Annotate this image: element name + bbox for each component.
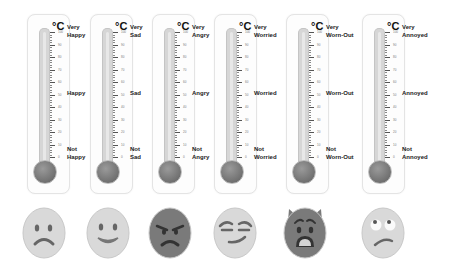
minor-tick xyxy=(309,75,311,76)
minor-tick xyxy=(237,77,239,78)
minor-tick xyxy=(175,122,177,123)
major-tick xyxy=(237,132,242,133)
minor-tick xyxy=(175,75,177,76)
major-tick xyxy=(175,132,180,133)
minor-tick xyxy=(50,135,52,136)
minor-tick xyxy=(113,60,115,61)
minor-tick xyxy=(237,52,239,53)
minor-tick xyxy=(175,87,177,88)
minor-tick xyxy=(309,42,311,43)
major-tick xyxy=(113,45,118,46)
minor-tick xyxy=(385,77,387,78)
tick-label: 10 xyxy=(393,143,396,147)
minor-tick xyxy=(113,67,115,68)
minor-tick xyxy=(237,75,239,76)
minor-tick xyxy=(385,135,387,136)
minor-tick xyxy=(175,42,177,43)
minor-tick xyxy=(50,37,52,38)
label-mid-emotion: Angry xyxy=(192,90,209,98)
minor-tick xyxy=(50,102,52,103)
minor-tick xyxy=(113,37,115,38)
tick-label: 40 xyxy=(393,105,396,109)
thermometer-scale: 1009080706050403020100 xyxy=(175,28,189,164)
minor-tick xyxy=(309,37,311,38)
tube-highlight xyxy=(302,32,305,162)
tick-label: 80 xyxy=(317,55,320,59)
minor-tick xyxy=(175,90,177,91)
tick-label: 80 xyxy=(121,55,124,59)
minor-tick xyxy=(385,80,387,81)
tick-label: 100 xyxy=(183,30,188,34)
minor-tick xyxy=(385,85,387,86)
minor-tick xyxy=(50,47,52,48)
thermometer-card-worried: °C1009080706050403020100 xyxy=(214,14,257,194)
minor-tick xyxy=(309,122,311,123)
minor-tick xyxy=(113,150,115,151)
minor-tick xyxy=(175,65,177,66)
minor-tick xyxy=(309,97,311,98)
minor-tick xyxy=(237,122,239,123)
minor-tick xyxy=(237,35,239,36)
minor-tick xyxy=(385,97,387,98)
minor-tick xyxy=(385,100,387,101)
minor-tick xyxy=(50,60,52,61)
major-tick xyxy=(50,107,55,108)
minor-tick xyxy=(309,72,311,73)
major-tick xyxy=(385,107,390,108)
minor-tick xyxy=(175,97,177,98)
minor-tick xyxy=(237,87,239,88)
thermometer-card-annoyed: °C1009080706050403020100 xyxy=(362,14,405,194)
major-tick xyxy=(309,95,314,96)
minor-tick xyxy=(175,85,177,86)
major-tick xyxy=(175,45,180,46)
tick-label: 80 xyxy=(393,55,396,59)
minor-tick xyxy=(113,140,115,141)
minor-tick xyxy=(309,102,311,103)
minor-tick xyxy=(309,140,311,141)
major-tick xyxy=(309,32,314,33)
minor-tick xyxy=(113,125,115,126)
minor-tick xyxy=(50,65,52,66)
minor-tick xyxy=(385,137,387,138)
major-tick xyxy=(113,120,118,121)
tick-label: 90 xyxy=(317,43,320,47)
minor-tick xyxy=(50,115,52,116)
tick-label: 50 xyxy=(58,93,61,97)
label-not-emotion: Sad xyxy=(130,154,141,162)
minor-tick xyxy=(237,62,239,63)
tick-label: 40 xyxy=(58,105,61,109)
minor-tick xyxy=(237,60,239,61)
thermometer-scale: 1009080706050403020100 xyxy=(50,28,64,164)
minor-tick xyxy=(309,92,311,93)
minor-tick xyxy=(113,137,115,138)
minor-tick xyxy=(175,137,177,138)
minor-tick xyxy=(309,100,311,101)
minor-tick xyxy=(50,142,52,143)
tick-label: 30 xyxy=(393,118,396,122)
minor-tick xyxy=(385,102,387,103)
minor-tick xyxy=(385,142,387,143)
minor-tick xyxy=(385,155,387,156)
minor-tick xyxy=(309,60,311,61)
frowning-face-icon xyxy=(22,207,66,259)
tick-label: 0 xyxy=(121,155,123,159)
minor-tick xyxy=(50,117,52,118)
tick-label: 60 xyxy=(393,80,396,84)
tick-label: 0 xyxy=(183,155,185,159)
minor-tick xyxy=(237,40,239,41)
label-very-emotion: Angry xyxy=(192,32,209,40)
minor-tick xyxy=(385,75,387,76)
minor-tick xyxy=(175,52,177,53)
label-not-emotion: Worn-Out xyxy=(326,154,354,162)
major-tick xyxy=(309,45,314,46)
label-mid-emotion: Annoyed xyxy=(402,90,428,98)
minor-tick xyxy=(50,55,52,56)
minor-tick xyxy=(175,155,177,156)
minor-tick xyxy=(113,135,115,136)
tick-label: 50 xyxy=(183,93,186,97)
minor-tick xyxy=(385,147,387,148)
tick-label: 70 xyxy=(393,68,396,72)
minor-tick xyxy=(385,115,387,116)
major-tick xyxy=(50,157,55,158)
label-mid-emotion: Worried xyxy=(254,90,277,98)
